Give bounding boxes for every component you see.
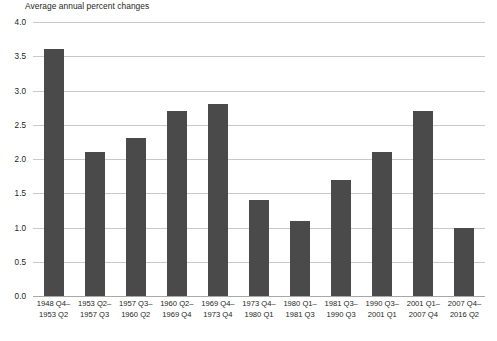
y-axis-tick-label: 3.5 — [0, 52, 26, 61]
y-axis-tick-label: 0.0 — [0, 292, 26, 301]
gridline — [33, 22, 485, 23]
y-axis-tick-label: 2.0 — [0, 155, 26, 164]
chart-title: Average annual percent changes — [25, 1, 149, 11]
gridline — [33, 91, 485, 92]
x-axis-tick-labels: 1948 Q4–1953 Q21953 Q2–1957 Q31957 Q3–19… — [33, 299, 485, 339]
bar — [454, 228, 474, 297]
bar — [85, 152, 105, 296]
bar — [126, 138, 146, 296]
y-axis-tick-label: 1.5 — [0, 189, 26, 198]
y-axis-tick-label: 0.5 — [0, 257, 26, 266]
bar — [372, 152, 392, 296]
x-axis-tick-label: 2007 Q4–2016 Q2 — [435, 299, 493, 320]
bar — [331, 180, 351, 296]
y-axis-tick-label: 2.5 — [0, 120, 26, 129]
x-axis-tick-label-line2: 2016 Q2 — [435, 310, 493, 321]
y-axis-tick-label: 4.0 — [0, 18, 26, 27]
bar — [413, 111, 433, 296]
gridline — [33, 296, 485, 297]
bar — [208, 104, 228, 296]
gridline — [33, 56, 485, 57]
y-axis-tick-label: 3.0 — [0, 86, 26, 95]
plot-area — [33, 22, 485, 296]
bar — [290, 221, 310, 296]
chart-container: Average annual percent changes 4.03.53.0… — [0, 0, 497, 341]
bar — [44, 49, 64, 296]
x-axis-tick-label-line1: 2007 Q4– — [448, 299, 481, 308]
bar — [167, 111, 187, 296]
bar — [249, 200, 269, 296]
y-axis-tick-label: 1.0 — [0, 223, 26, 232]
